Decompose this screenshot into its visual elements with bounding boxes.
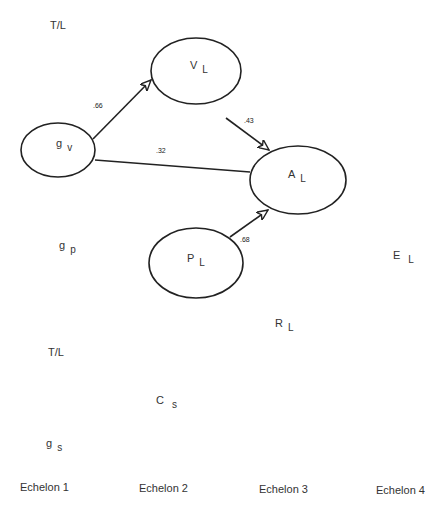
edge-gv-AL xyxy=(95,160,250,172)
echelon-2-label: Echelon 2 xyxy=(139,482,188,494)
echelon-4-label: Echelon 4 xyxy=(376,484,425,496)
node-gv-label: gv xyxy=(56,137,72,149)
node-AL-ellipse xyxy=(250,146,346,214)
label-tl-bottom: T/L xyxy=(48,346,64,358)
node-PL-label: PL xyxy=(187,252,205,264)
coef-VL-AL: .43 xyxy=(244,117,254,124)
label-RL: RL xyxy=(275,317,294,329)
label-tl-top: T/L xyxy=(50,19,66,31)
node-VL-label: VL xyxy=(190,59,208,71)
node-AL-label: AL xyxy=(288,168,306,180)
node-VL-ellipse xyxy=(151,38,241,104)
edge-gv-VL xyxy=(93,80,151,139)
echelon-3-label: Echelon 3 xyxy=(259,483,308,495)
echelon-1-label: Echelon 1 xyxy=(20,481,69,493)
label-Cs: Cs xyxy=(156,394,177,406)
label-gs: gs xyxy=(46,437,62,449)
label-gp: gp xyxy=(59,239,76,251)
edge-PL-AL xyxy=(230,210,268,237)
node-gv-ellipse xyxy=(21,123,95,177)
coef-gv-AL: .32 xyxy=(156,147,166,154)
coef-gv-VL: .66 xyxy=(93,102,103,109)
label-EL: EL xyxy=(393,249,414,261)
path-diagram-canvas xyxy=(0,0,446,520)
coef-PL-AL: .68 xyxy=(240,236,250,243)
